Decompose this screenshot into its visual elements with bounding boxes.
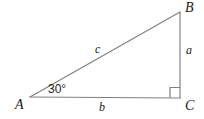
- vertex-label-c: C: [185, 99, 194, 113]
- side-label-b: b: [99, 101, 105, 113]
- side-label-c: c: [95, 43, 100, 55]
- vertex-label-b: B: [185, 1, 194, 15]
- side-label-a: a: [186, 44, 192, 56]
- side-b-base-line: [30, 97, 180, 98]
- right-angle-marker-icon: [170, 88, 180, 98]
- angle-label-30-degrees: 30°: [48, 83, 66, 95]
- geometry-figure-canvas: A B C a b c 30°: [0, 0, 204, 119]
- vertex-label-a: A: [15, 98, 24, 112]
